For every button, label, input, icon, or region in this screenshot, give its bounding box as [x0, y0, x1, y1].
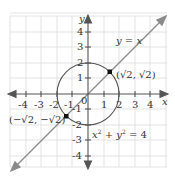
x-tick-label: 3: [132, 99, 138, 110]
x-axis-label: x: [162, 96, 168, 107]
y-tick-label: 4: [77, 26, 83, 37]
line-equation-label: y = x: [115, 35, 142, 46]
x-tick-label: 1: [101, 99, 107, 110]
x-tick-label: -4: [18, 99, 28, 110]
y-axis-arrow-down-icon: [85, 161, 92, 169]
point-label-negative: (−√2, −√2): [9, 114, 65, 125]
y-tick-label: -2: [72, 119, 82, 130]
y-tick-label: 1: [77, 72, 83, 83]
x-tick-label: 4: [147, 99, 153, 110]
graph-figure: y x 0 -4 -3 -2 -1 1 2 3 4 4 3 2 1 -1 -2 …: [0, 0, 175, 186]
intersection-point-positive: [108, 70, 113, 75]
y-tick-label: -1: [72, 103, 82, 114]
x-axis-arrow-left-icon: [8, 91, 16, 98]
y-tick-label: 3: [77, 41, 83, 52]
x-tick-label: -2: [49, 99, 59, 110]
point-label-positive: (√2, √2): [116, 69, 156, 80]
y-tick-label: -4: [72, 150, 82, 161]
x-tick-label: 2: [116, 99, 122, 110]
y-tick-label: -3: [72, 134, 82, 145]
origin-label: 0: [81, 95, 87, 106]
y-tick-label: 2: [77, 57, 83, 68]
y-axis-label: y: [78, 13, 85, 24]
x-tick-label: -3: [34, 99, 44, 110]
circle-equation-label: x2 + y2 = 4: [92, 128, 147, 140]
